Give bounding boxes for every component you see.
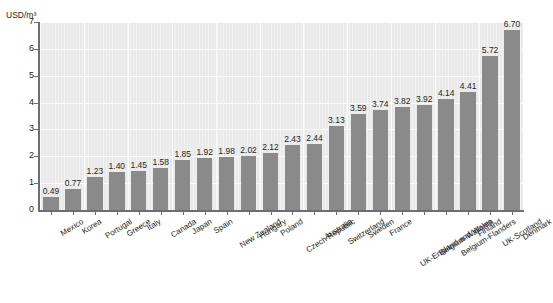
gridline-texture bbox=[58, 22, 59, 210]
bar bbox=[131, 171, 146, 210]
y-axis-tick-mark bbox=[34, 76, 39, 77]
bar bbox=[373, 110, 388, 210]
gridline-texture bbox=[85, 22, 86, 210]
x-axis-tick-mark bbox=[139, 212, 140, 215]
y-axis-tick-mark bbox=[34, 129, 39, 130]
bar bbox=[307, 144, 322, 210]
gridline-texture bbox=[217, 22, 218, 210]
bar bbox=[395, 107, 410, 210]
bar bbox=[153, 168, 168, 210]
bar bbox=[175, 160, 190, 210]
x-axis-tick-mark bbox=[402, 212, 403, 215]
gridline-texture bbox=[46, 22, 47, 210]
y-axis-ticks: 01234567 bbox=[0, 0, 34, 303]
bar-value-label: 1.45 bbox=[131, 160, 148, 170]
gridline-texture bbox=[499, 22, 500, 210]
x-axis-tick-mark bbox=[227, 212, 228, 215]
bar bbox=[417, 105, 432, 210]
gridline-texture bbox=[280, 22, 281, 210]
category-label: Korea bbox=[80, 217, 103, 236]
bar-value-label: 3.13 bbox=[328, 115, 345, 125]
gridline-texture bbox=[325, 22, 326, 210]
bar-value-label: 4.41 bbox=[460, 81, 477, 91]
y-axis-tick-mark bbox=[34, 103, 39, 104]
bar bbox=[197, 158, 212, 210]
x-axis-tick-mark bbox=[249, 212, 250, 215]
y-axis-tick-label: 0 bbox=[4, 204, 34, 214]
x-axis-tick-mark bbox=[117, 212, 118, 215]
x-axis-tick-mark bbox=[380, 212, 381, 215]
bar-value-label: 1.40 bbox=[109, 161, 126, 171]
bar-value-label: 2.02 bbox=[240, 145, 257, 155]
gridline-texture bbox=[433, 22, 434, 210]
bar bbox=[65, 189, 80, 210]
x-axis-tick-mark bbox=[292, 212, 293, 215]
gridline-texture bbox=[370, 22, 371, 210]
bar bbox=[329, 126, 344, 210]
bar-value-label: 0.77 bbox=[65, 178, 82, 188]
gridline-texture bbox=[457, 22, 458, 210]
gridline-texture bbox=[55, 22, 56, 210]
bar-value-label: 2.12 bbox=[262, 142, 279, 152]
x-axis-tick-mark bbox=[95, 212, 96, 215]
gridline-texture bbox=[103, 22, 104, 210]
y-axis-tick-label: 7 bbox=[4, 16, 34, 26]
x-axis-tick-mark bbox=[51, 212, 52, 215]
gridline-vertical bbox=[84, 22, 85, 210]
bar-value-label: 3.82 bbox=[394, 96, 411, 106]
bar bbox=[109, 172, 124, 210]
gridline-texture bbox=[49, 22, 50, 210]
bar-value-label: 6.70 bbox=[504, 19, 521, 29]
bar bbox=[460, 92, 475, 210]
gridline-texture bbox=[454, 22, 455, 210]
bar-value-label: 0.49 bbox=[43, 186, 60, 196]
gridline-texture bbox=[322, 22, 323, 210]
bar bbox=[43, 197, 58, 210]
x-axis-tick-mark bbox=[73, 212, 74, 215]
bar-value-label: 1.23 bbox=[87, 166, 104, 176]
gridline-vertical bbox=[347, 22, 348, 210]
y-axis-tick-label: 1 bbox=[4, 177, 34, 187]
gridline-vertical bbox=[128, 22, 129, 210]
bar bbox=[504, 30, 519, 210]
bar bbox=[219, 157, 234, 210]
bar bbox=[438, 99, 453, 210]
x-axis-tick-mark bbox=[468, 212, 469, 215]
y-axis-tick-label: 5 bbox=[4, 70, 34, 80]
gridline-vertical bbox=[479, 22, 480, 210]
y-axis-tick-label: 6 bbox=[4, 43, 34, 53]
gridline-vertical bbox=[172, 22, 173, 210]
x-axis-tick-mark bbox=[424, 212, 425, 215]
gridline-texture bbox=[367, 22, 368, 210]
gridline-vertical bbox=[391, 22, 392, 210]
gridline-vertical bbox=[216, 22, 217, 210]
bar-value-label: 4.14 bbox=[438, 88, 455, 98]
x-axis-tick-mark bbox=[358, 212, 359, 215]
gridline-texture bbox=[43, 22, 44, 210]
y-axis-tick-mark bbox=[34, 156, 39, 157]
bar bbox=[87, 177, 102, 210]
bar-value-label: 2.43 bbox=[284, 134, 301, 144]
gridline-vertical bbox=[435, 22, 436, 210]
bar-value-label: 3.92 bbox=[416, 94, 433, 104]
gridline-texture bbox=[151, 22, 152, 210]
bar-value-label: 2.44 bbox=[306, 133, 323, 143]
y-axis-tick-mark bbox=[34, 183, 39, 184]
bar bbox=[285, 145, 300, 210]
gridline-texture bbox=[106, 22, 107, 210]
bar-value-label: 1.92 bbox=[196, 147, 213, 157]
x-axis-tick-mark bbox=[336, 212, 337, 215]
gridline-texture bbox=[193, 22, 194, 210]
gridline-texture bbox=[148, 22, 149, 210]
gridline-vertical bbox=[40, 22, 41, 210]
bar bbox=[263, 153, 278, 210]
bar-value-label: 1.58 bbox=[152, 157, 169, 167]
bar bbox=[241, 156, 256, 210]
x-axis-tick-mark bbox=[161, 212, 162, 215]
bar-value-label: 1.85 bbox=[174, 149, 191, 159]
x-axis-tick-mark bbox=[205, 212, 206, 215]
gridline-texture bbox=[502, 22, 503, 210]
y-axis-tick-mark bbox=[34, 22, 39, 23]
y-axis-tick-label: 2 bbox=[4, 150, 34, 160]
